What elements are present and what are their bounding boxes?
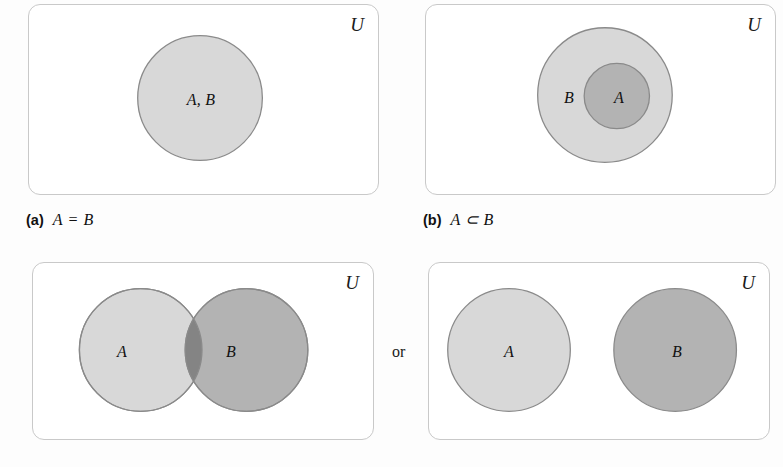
panel-b-universe-box: U B A (425, 4, 776, 195)
caption-a: (a)A = B (26, 212, 94, 228)
panel-d-graphic (429, 263, 769, 439)
universe-label-a: U (350, 15, 364, 34)
caption-b: (b)A ⊂ B (423, 212, 494, 228)
caption-a-tag: (a) (26, 212, 44, 228)
set-label-d-b: B (672, 344, 682, 360)
panel-c-universe-box: U A B (32, 262, 374, 440)
set-label-d-a: A (504, 344, 514, 360)
venn-diagram-figure: U A, B (a)A = B U B A (b)A ⊂ B (0, 0, 783, 467)
panel-c-graphic (33, 263, 373, 439)
set-label-c-a: A (117, 344, 127, 360)
panel-a-universe-box: U A, B (28, 4, 379, 195)
set-label-a-ab: A, B (187, 92, 216, 108)
set-label-b-inner-a: A (614, 90, 624, 106)
caption-a-expression: A = B (53, 211, 94, 228)
caption-b-tag: (b) (423, 212, 442, 228)
caption-b-expression: A ⊂ B (451, 211, 494, 228)
universe-label-c: U (345, 273, 359, 292)
conjunction-or: or (392, 344, 405, 360)
set-label-c-b: B (226, 344, 236, 360)
set-label-b-outer: B (564, 90, 574, 106)
panel-b-graphic (426, 5, 775, 194)
universe-label-b: U (747, 15, 761, 34)
panel-d-universe-box: U A B (428, 262, 770, 440)
universe-label-d: U (741, 273, 755, 292)
